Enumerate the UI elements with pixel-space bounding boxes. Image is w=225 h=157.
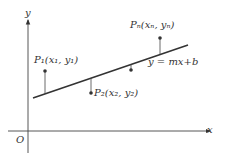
residual-p2 bbox=[89, 78, 93, 95]
regression-diagram bbox=[0, 0, 225, 157]
pn-label: Pₙ(xₙ, yₙ) bbox=[130, 20, 174, 30]
origin-label: O bbox=[16, 135, 24, 145]
p1-label: P₁(x₁, y₁) bbox=[34, 55, 78, 65]
line-equation-label: y = mx+b bbox=[148, 57, 198, 67]
p2-label: P₂(x₂, y₂) bbox=[94, 88, 138, 98]
x-axis-label: x bbox=[207, 125, 213, 135]
y-axis-label: y bbox=[25, 8, 31, 18]
residual-pn bbox=[158, 36, 162, 54]
residual-p1 bbox=[43, 69, 47, 94]
